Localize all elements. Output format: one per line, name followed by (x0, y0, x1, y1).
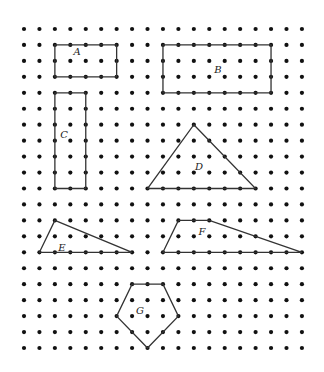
grid-dot (269, 346, 273, 350)
grid-dot (37, 266, 41, 270)
grid-dot (99, 59, 103, 63)
grid-dot (145, 59, 149, 63)
grid-dot (37, 170, 41, 174)
grid-dot (99, 155, 103, 159)
grid-dot (192, 346, 196, 350)
grid-dot (161, 266, 165, 270)
shapes-layer: ABCDEFG (39, 45, 301, 348)
grid-dot (115, 234, 119, 238)
grid-dot (269, 155, 273, 159)
grid-dot (130, 218, 134, 222)
grid-dot (207, 314, 211, 318)
grid-dot (99, 170, 103, 174)
grid-dot (161, 234, 165, 238)
shape-outline (163, 220, 302, 252)
grid-dot (207, 27, 211, 31)
grid-dot (145, 123, 149, 127)
grid-dot (207, 202, 211, 206)
grid-dot (284, 107, 288, 111)
grid-dot (115, 202, 119, 206)
grid-dot (223, 107, 227, 111)
grid-dot (145, 107, 149, 111)
grid-dot (99, 139, 103, 143)
grid-dot (37, 59, 41, 63)
grid-dot (130, 314, 134, 318)
grid-dot (192, 27, 196, 31)
grid-dot (176, 155, 180, 159)
shape-label: F (198, 226, 207, 237)
grid-dot (269, 282, 273, 286)
grid-dot (130, 202, 134, 206)
shape-label: B (213, 64, 221, 75)
grid-dot (84, 346, 88, 350)
grid-dot (68, 170, 72, 174)
grid-dot (22, 27, 26, 31)
grid-dot (22, 202, 26, 206)
grid-dot (176, 282, 180, 286)
grid-dot (68, 155, 72, 159)
grid-dot (68, 59, 72, 63)
grid-dot (22, 123, 26, 127)
grid-dot (161, 202, 165, 206)
grid-dot (84, 298, 88, 302)
shape-b: B (163, 45, 271, 93)
grid-dot (115, 91, 119, 95)
grid-dot (223, 123, 227, 127)
grid-dot (145, 218, 149, 222)
dot-grid-diagram: ABCDEFG (0, 0, 324, 372)
grid-dot (207, 155, 211, 159)
grid-dot (238, 346, 242, 350)
grid-dot (145, 43, 149, 47)
grid-dot (68, 27, 72, 31)
grid-dot (207, 330, 211, 334)
grid-dot (192, 75, 196, 79)
grid-dot (254, 218, 258, 222)
grid-dot (115, 218, 119, 222)
grid-dot (223, 234, 227, 238)
grid-dot (238, 155, 242, 159)
grid-dot (192, 139, 196, 143)
grid-dot (284, 155, 288, 159)
grid-dot (269, 314, 273, 318)
grid-dot (192, 234, 196, 238)
grid-dot (115, 155, 119, 159)
grid-dot (300, 298, 304, 302)
grid-dot (207, 234, 211, 238)
grid-dot (284, 202, 288, 206)
grid-dot (269, 170, 273, 174)
grid-dot (145, 170, 149, 174)
grid-dot (99, 186, 103, 190)
shape-label: G (136, 305, 144, 316)
grid-dot (284, 282, 288, 286)
grid-dot (269, 218, 273, 222)
grid-dot (37, 123, 41, 127)
grid-dot (22, 234, 26, 238)
grid-dot (53, 266, 57, 270)
grid-dot (68, 139, 72, 143)
grid-dot (284, 59, 288, 63)
grid-dot (238, 218, 242, 222)
grid-dot (300, 107, 304, 111)
grid-dot (269, 107, 273, 111)
grid-dot (37, 314, 41, 318)
grid-dot (130, 266, 134, 270)
grid-dot (300, 266, 304, 270)
grid-dot (84, 218, 88, 222)
grid-dot (223, 266, 227, 270)
grid-dot (84, 27, 88, 31)
grid-dot (68, 346, 72, 350)
grid-dot (115, 107, 119, 111)
grid-dot (254, 170, 258, 174)
grid-dot (130, 75, 134, 79)
grid-dot (269, 202, 273, 206)
grid-dot (37, 330, 41, 334)
grid-dot (223, 282, 227, 286)
grid-dot (115, 346, 119, 350)
grid-dot (145, 155, 149, 159)
grid-dot (99, 266, 103, 270)
grid-dot (207, 266, 211, 270)
grid-dot (130, 59, 134, 63)
grid-dot (145, 234, 149, 238)
grid-dot (22, 186, 26, 190)
grid-dot (300, 282, 304, 286)
